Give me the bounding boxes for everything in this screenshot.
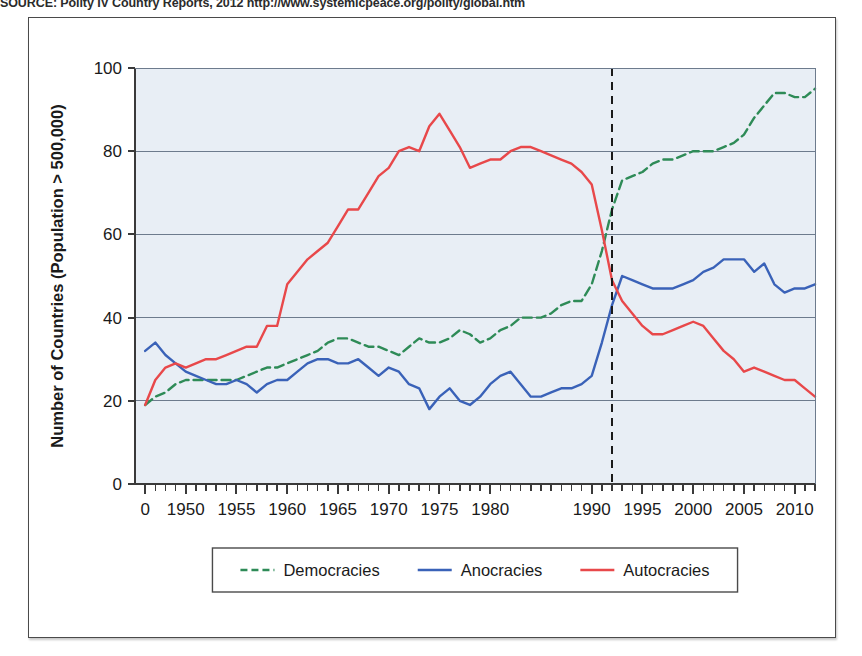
y-tick-label: 20: [103, 392, 122, 411]
y-axis-ticks: 020406080100: [94, 59, 135, 494]
x-tick-label: 1995: [624, 500, 662, 519]
x-tick-label: 1975: [421, 500, 459, 519]
x-tick-label: 1990: [573, 500, 611, 519]
x-tick-label: 1950: [167, 500, 205, 519]
x-tick-label: 1955: [218, 500, 256, 519]
y-tick-label: 0: [113, 475, 122, 494]
x-tick-label: 0: [140, 500, 149, 519]
x-tick-label: 2010: [776, 500, 814, 519]
source-note-text: Polity IV Country Reports, 2012 http://w…: [57, 0, 525, 10]
x-tick-label: 1965: [319, 500, 357, 519]
y-tick-label: 60: [103, 225, 122, 244]
x-tick-label: 1980: [471, 500, 509, 519]
legend-label-democracies: Democracies: [283, 561, 379, 579]
x-tick-label: 2000: [674, 500, 712, 519]
x-tick-label: 2005: [725, 500, 763, 519]
plot-background: [135, 68, 815, 484]
x-tick-label: 1960: [268, 500, 306, 519]
y-axis-label-text: Number of Countries (Population > 500,00…: [48, 104, 66, 447]
legend-label-anocracies: Anocracies: [461, 561, 543, 579]
chart-legend: DemocraciesAnocraciesAutocracies: [212, 548, 737, 592]
y-tick-label: 100: [94, 59, 122, 78]
source-note: SOURCE: Polity IV Country Reports, 2012 …: [0, 0, 862, 12]
y-axis-title: Number of Countries (Population > 500,00…: [48, 104, 66, 447]
x-tick-label: 1970: [370, 500, 408, 519]
figure-frame: 020406080100 019501955196019651970197519…: [28, 17, 836, 638]
y-tick-label: 80: [103, 142, 122, 161]
regime-trends-chart: 020406080100 019501955196019651970197519…: [29, 18, 834, 636]
x-axis-ticks: 0195019551960196519701975198019901995200…: [140, 484, 815, 519]
legend-label-autocracies: Autocracies: [623, 561, 709, 579]
y-tick-label: 40: [103, 309, 122, 328]
source-note-label: SOURCE:: [0, 0, 57, 10]
